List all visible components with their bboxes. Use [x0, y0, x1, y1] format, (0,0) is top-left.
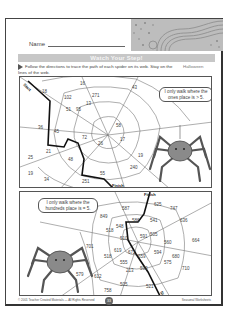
spider-illustration-icon — [28, 248, 92, 292]
svg-text:48: 48 — [68, 157, 74, 162]
svg-text:17: 17 — [120, 137, 126, 142]
svg-text:72: 72 — [82, 135, 88, 140]
worksheet-title: Watch Your Step! — [18, 54, 215, 62]
svg-text:34: 34 — [44, 177, 50, 182]
svg-text:579: 579 — [76, 272, 84, 277]
directions-text: Follow the directions to trace the path … — [18, 64, 172, 75]
svg-text:664: 664 — [192, 238, 200, 243]
name-field: Name — [29, 41, 125, 47]
svg-text:521: 521 — [146, 284, 154, 289]
svg-text:43: 43 — [132, 85, 138, 90]
speech-bubble-top: I only walk where the ones place is > 5. — [159, 87, 212, 102]
svg-text:505: 505 — [150, 232, 158, 237]
svg-text:58: 58 — [116, 123, 122, 128]
svg-text:591: 591 — [140, 234, 148, 239]
svg-text:55: 55 — [100, 171, 106, 176]
svg-text:505: 505 — [120, 282, 128, 287]
svg-text:659: 659 — [138, 254, 146, 259]
svg-text:710: 710 — [182, 266, 190, 271]
svg-text:45: 45 — [54, 129, 60, 134]
svg-text:25: 25 — [28, 155, 34, 160]
name-line[interactable] — [48, 46, 125, 47]
speech-bubble-bottom: I only walk where the hundreds place is … — [38, 198, 98, 213]
svg-text:586: 586 — [132, 218, 140, 223]
svg-text:612: 612 — [94, 274, 102, 279]
footer-series: Seasonal Worksheets — [182, 298, 211, 302]
copyright-text: © 2001 Teacher Created Materials — All R… — [18, 298, 95, 302]
svg-text:36: 36 — [38, 125, 44, 130]
svg-text:271: 271 — [92, 93, 100, 98]
svg-text:555: 555 — [120, 260, 128, 265]
svg-text:13: 13 — [86, 101, 92, 106]
start-label-bottom: Start — [159, 290, 168, 296]
svg-text:548: 548 — [116, 224, 124, 229]
svg-text:18: 18 — [42, 89, 48, 94]
header-decoration — [131, 19, 223, 51]
svg-text:51: 51 — [66, 107, 72, 112]
svg-text:240: 240 — [130, 165, 138, 170]
name-label: Name — [29, 41, 45, 47]
theme-label: Halloween — [183, 64, 204, 69]
svg-text:747: 747 — [170, 206, 178, 211]
svg-text:701: 701 — [86, 244, 94, 249]
top-web-panel: Start Finish 18 102 271 16 43 51 95 13 3… — [19, 76, 212, 188]
svg-text:213: 213 — [126, 268, 134, 273]
svg-text:587: 587 — [122, 206, 130, 211]
svg-text:849: 849 — [100, 214, 108, 219]
svg-text:541: 541 — [150, 218, 158, 223]
svg-text:518: 518 — [106, 228, 114, 233]
svg-text:19: 19 — [138, 153, 144, 158]
svg-text:16: 16 — [80, 81, 86, 86]
svg-text:95: 95 — [76, 107, 82, 112]
svg-text:575: 575 — [164, 260, 172, 265]
svg-text:19: 19 — [28, 171, 34, 176]
svg-text:672: 672 — [128, 250, 136, 255]
page-number: 33 — [105, 297, 113, 305]
finish-label-bottom: Finish — [144, 192, 156, 197]
svg-text:636: 636 — [180, 218, 188, 223]
svg-text:680: 680 — [172, 254, 180, 259]
svg-text:560: 560 — [164, 240, 172, 245]
finish-label: Finish — [112, 183, 124, 188]
bottom-web-panel: Finish Start 587 625 747 849 548 586 541… — [19, 191, 212, 296]
svg-text:619: 619 — [114, 248, 122, 253]
svg-text:510: 510 — [120, 236, 128, 241]
svg-text:102: 102 — [64, 95, 72, 100]
svg-text:594: 594 — [154, 250, 162, 255]
svg-text:518: 518 — [104, 254, 112, 259]
svg-text:21: 21 — [46, 149, 52, 154]
svg-text:590: 590 — [140, 266, 148, 271]
directions: Follow the directions to trace the path … — [18, 64, 178, 76]
svg-text:251: 251 — [82, 179, 90, 184]
svg-text:758: 758 — [104, 288, 112, 293]
worksheet-page: Name Watch Your Step! Follow the directi… — [5, 18, 223, 306]
svg-text:26: 26 — [98, 141, 104, 146]
svg-text:625: 625 — [154, 202, 162, 207]
swirl-decoration-icon — [131, 19, 223, 51]
